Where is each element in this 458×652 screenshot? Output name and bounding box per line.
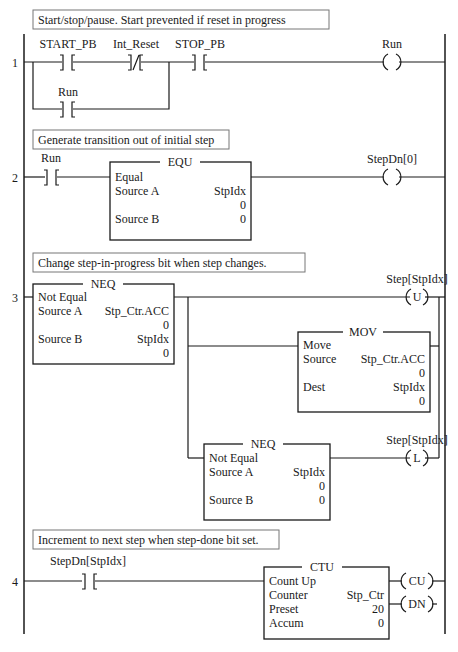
mov-source-live-value: 0 <box>419 366 425 380</box>
normally-closed-contact-icon <box>128 55 143 70</box>
contact-start-pb[interactable]: START_PB <box>40 37 97 70</box>
neq-block-1-name: NEQ <box>91 277 116 291</box>
coil-unlatch-step-tag: Step[StpIdx] <box>386 272 447 286</box>
normally-open-contact-icon <box>192 55 207 70</box>
rung-4[interactable]: Increment to next step when step-done bi… <box>12 530 445 639</box>
rung-1-comment: Start/stop/pause. Start prevented if res… <box>38 13 286 27</box>
equ-block-title: Equal <box>115 170 144 184</box>
normally-open-contact-icon <box>60 102 75 117</box>
ctu-counter-label: Counter <box>269 588 308 602</box>
neq-block-2-name: NEQ <box>251 437 276 451</box>
equ-source-b-value: 0 <box>240 212 246 226</box>
rung-3[interactable]: Change step-in-progress bit when step ch… <box>12 253 448 520</box>
coil-run[interactable]: Run <box>382 37 402 70</box>
rung-4-number: 4 <box>12 575 18 589</box>
neq-block-2[interactable]: NEQ Not Equal Source A StpIdx 0 Source B… <box>204 437 330 520</box>
normally-open-contact-icon <box>44 170 59 185</box>
ctu-cu-label: CU <box>409 574 426 588</box>
rung-4-comment: Increment to next step when step-done bi… <box>38 533 259 547</box>
neq-block-1-title: Not Equal <box>38 290 88 304</box>
contact-int-reset[interactable]: Int_Reset <box>113 37 160 70</box>
rung-2[interactable]: Generate transition out of initial step … <box>12 130 445 240</box>
ctu-block-title: Count Up <box>269 574 316 588</box>
rung-2-number: 2 <box>12 171 18 185</box>
output-coil-icon <box>383 54 401 70</box>
coil-run-tag: Run <box>382 37 402 51</box>
ctu-cu-output[interactable]: CU <box>401 573 433 589</box>
coil-latch-symbol: L <box>413 451 420 465</box>
equ-block-name: EQU <box>168 155 193 169</box>
neq2-source-a-live-value: 0 <box>319 479 325 493</box>
contact-stepdn-stpidx-tag: StepDn[StpIdx] <box>50 554 126 568</box>
equ-source-a-live-value: 0 <box>240 198 246 212</box>
ctu-preset-value: 20 <box>372 602 384 616</box>
ctu-preset-label: Preset <box>269 602 299 616</box>
neq1-source-a-value: Stp_Ctr.ACC <box>105 304 169 318</box>
ctu-block-name: CTU <box>310 560 334 574</box>
ctu-block[interactable]: CTU Count Up Counter Stp_Ctr Preset 20 A… <box>264 560 389 639</box>
rung-2-comment: Generate transition out of initial step <box>38 133 214 147</box>
rung-3-number: 3 <box>12 291 18 305</box>
mov-dest-live-value: 0 <box>419 394 425 408</box>
equ-source-a-value: StpIdx <box>214 184 246 198</box>
output-coil-icon <box>383 169 401 185</box>
contact-run-branch[interactable]: Run <box>58 85 78 117</box>
coil-stepdn-0-tag: StepDn[0] <box>367 152 417 166</box>
neq-block-1[interactable]: NEQ Not Equal Source A Stp_Ctr.ACC 0 Sou… <box>33 277 174 364</box>
neq1-source-a-label: Source A <box>38 304 83 318</box>
rung-1-number: 1 <box>12 56 18 70</box>
ctu-dn-label: DN <box>408 597 426 611</box>
contact-start-pb-tag: START_PB <box>40 37 97 51</box>
contact-stop-pb-tag: STOP_PB <box>175 37 225 51</box>
neq-block-2-title: Not Equal <box>209 451 259 465</box>
neq2-source-b-value: 0 <box>319 493 325 507</box>
mov-source-label: Source <box>303 352 336 366</box>
neq1-source-b-label: Source B <box>38 332 82 346</box>
ctu-counter-value: Stp_Ctr <box>347 588 384 602</box>
normally-open-contact-icon <box>82 574 97 589</box>
mov-block[interactable]: MOV Move Source Stp_Ctr.ACC 0 Dest StpId… <box>298 325 430 412</box>
mov-dest-label: Dest <box>303 380 326 394</box>
ctu-accum-value: 0 <box>378 616 384 630</box>
rung-1[interactable]: Start/stop/pause. Start prevented if res… <box>12 10 445 117</box>
neq1-source-a-live-value: 0 <box>163 318 169 332</box>
neq2-source-a-value: StpIdx <box>293 465 325 479</box>
neq2-source-a-label: Source A <box>209 465 254 479</box>
coil-unlatch-symbol: U <box>413 290 422 304</box>
normally-open-contact-icon <box>60 55 75 70</box>
contact-stepdn-stpidx[interactable]: StepDn[StpIdx] <box>50 554 126 589</box>
equ-source-b-label: Source B <box>115 212 159 226</box>
ctu-accum-label: Accum <box>269 616 304 630</box>
equ-block[interactable]: EQU Equal Source A StpIdx 0 Source B 0 <box>110 155 251 240</box>
mov-block-name: MOV <box>349 325 377 339</box>
neq1-source-b-live-value: 0 <box>163 346 169 360</box>
mov-source-value: Stp_Ctr.ACC <box>361 352 425 366</box>
contact-run-branch-tag: Run <box>58 85 78 99</box>
contact-int-reset-tag: Int_Reset <box>113 37 160 51</box>
equ-source-a-label: Source A <box>115 184 160 198</box>
ladder-diagram: Start/stop/pause. Start prevented if res… <box>0 0 458 652</box>
rung-3-comment: Change step-in-progress bit when step ch… <box>38 256 267 270</box>
mov-block-title: Move <box>303 338 331 352</box>
mov-dest-value: StpIdx <box>393 380 425 394</box>
ctu-dn-output[interactable]: DN <box>401 596 433 612</box>
contact-stop-pb[interactable]: STOP_PB <box>175 37 225 70</box>
neq1-source-b-value: StpIdx <box>137 332 169 346</box>
coil-latch-step-tag: Step[StpIdx] <box>386 433 447 447</box>
neq2-source-b-label: Source B <box>209 493 253 507</box>
contact-run-tag: Run <box>41 151 61 165</box>
contact-run[interactable]: Run <box>41 151 61 185</box>
coil-stepdn-0[interactable]: StepDn[0] <box>367 152 417 185</box>
